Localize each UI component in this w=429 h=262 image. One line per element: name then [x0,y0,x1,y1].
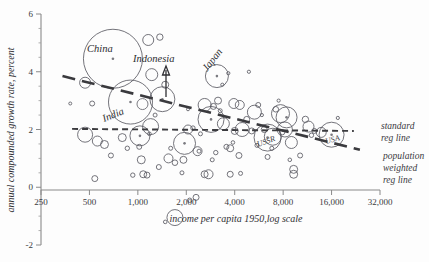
x-tick-label: 250 [34,197,48,207]
chart-canvas: -20246 2505001,0002,0004,0008,00016,0003… [0,0,429,262]
y-axis-title: annual compounded growth rate, percent [5,47,16,212]
bubble [131,173,135,177]
legend-standard-line-2: reg line [381,133,410,143]
bubble-circle [247,70,250,73]
bubble [143,34,154,45]
bubble [336,116,339,119]
bubble [92,176,98,182]
bubble-circle [172,160,178,166]
bubble-indonesia [150,87,175,112]
bubble-center-dot [210,118,213,121]
bubble-circle [100,141,108,149]
bubble [156,165,161,170]
x-tick-label: 8,000 [273,197,294,207]
y-tick-label: 2 [29,125,34,135]
x-tick-label: 1,000 [128,197,149,207]
bubble [227,171,233,177]
bubble [215,97,222,104]
bubble [153,113,157,117]
bubble-center-dot [183,142,186,145]
x-axis-tick-labels: 2505001,0002,0004,0008,00016,00032,000 [34,197,393,207]
bubble-circle [235,100,244,109]
bubble-circle [146,69,158,81]
bubble [270,146,274,150]
bubble [180,171,184,175]
bubble [169,146,173,150]
bubble [316,127,326,137]
bubble [309,133,313,137]
bubble-circle [143,34,154,45]
bubble-circle [140,171,147,178]
bubble-circle [316,127,326,137]
bubble-circle [227,145,234,152]
x-axis-ticks [41,190,380,195]
bubble-circle [90,101,95,106]
bubble-circle [157,34,163,40]
bubble-circle [214,150,218,154]
legend-weighted-line-3: reg line [383,175,412,185]
y-axis-tick-labels: -20246 [26,9,34,250]
bubble-center-dot [112,57,115,60]
legend-weighted-line-2: weighted [383,163,418,173]
bubble [69,102,72,105]
bubble-circle [236,152,242,158]
bubble-circle [298,153,303,158]
bubble [247,70,250,73]
bubble [231,141,235,145]
x-tick-label: 16,000 [319,197,344,207]
y-tick-label: 4 [29,67,34,77]
bubble-center-dot [139,135,142,138]
bubble-circle [163,220,167,224]
x-tick-label: 500 [83,197,97,207]
bubble-circle [131,173,135,177]
bubble [157,34,163,40]
bubble-circle [288,158,292,162]
bubble [137,156,145,164]
bubble-circle [270,146,274,150]
bubble-circle [125,146,129,150]
x-axis-title: income per capita 1950,log scale [169,213,303,224]
bubble [198,132,202,136]
bubble-circle [118,134,126,142]
bubble-circle [180,171,184,175]
bubble-circle [153,113,157,117]
y-tick-label: -2 [26,240,34,250]
bubble [288,158,292,162]
bubble [125,146,129,150]
bubble [164,154,173,163]
bubble [137,144,142,149]
bubble [210,158,214,162]
bubble-circle [290,165,298,173]
bubble-circle [169,146,173,150]
bubble-center-dot [285,116,288,119]
bubble [118,134,126,142]
bubble [227,145,234,152]
bubble-circle [229,99,239,109]
bubble [90,101,95,106]
bubble-circle [309,133,313,137]
label-indonesia: Indonesia [132,53,174,64]
bubble [100,141,108,149]
bubble [180,156,187,163]
bubble-circle [277,99,280,102]
bubble [277,99,280,102]
bubble [163,220,167,224]
legend-standard-line-1: standard [381,121,415,131]
bubble [236,152,242,158]
bubble-circle [336,116,339,119]
y-tick-label: 0 [29,182,34,192]
bubble-scatter-chart: -20246 2505001,0002,0004,0008,00016,0003… [0,0,429,262]
bubble-circle [273,106,279,112]
bubble [239,171,243,175]
y-axis-ticks [36,14,41,245]
bubble-circle [239,171,243,175]
bubble-circle [137,144,142,149]
bubble-circle [210,158,214,162]
bubble-circle [108,153,113,158]
bubble [265,154,270,159]
bubble-circle [180,156,187,163]
bubble-circle [290,170,298,178]
bubble-circle [265,154,270,159]
y-tick-label: 6 [29,9,34,19]
bubble [140,171,147,178]
